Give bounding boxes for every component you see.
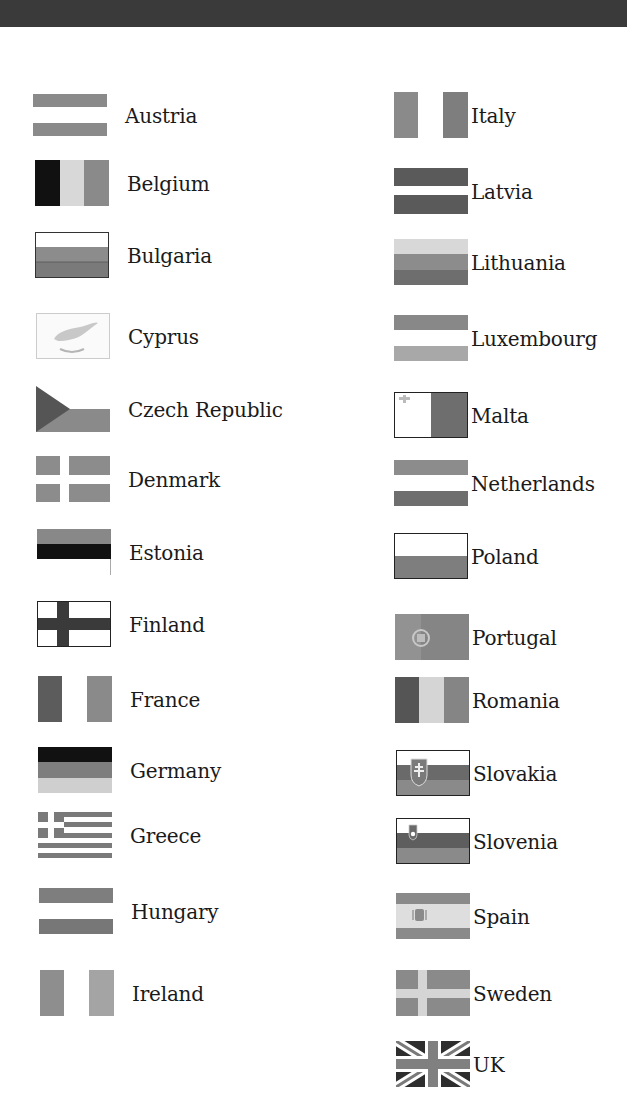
country-label: Hungary	[131, 900, 218, 924]
latvia-flag-icon	[394, 168, 468, 214]
poland-flag-icon	[394, 533, 468, 579]
netherlands-flag-icon	[394, 460, 468, 506]
france-flag-icon	[38, 676, 112, 722]
hungary-flag-icon	[39, 888, 113, 934]
country-label: Italy	[471, 104, 516, 128]
country-label: Slovakia	[473, 762, 557, 786]
country-label: Lithuania	[471, 251, 566, 275]
country-label: Finland	[129, 613, 205, 637]
country-label: Austria	[125, 104, 197, 128]
spain-flag-icon	[396, 893, 470, 939]
country-label: Malta	[471, 404, 529, 428]
country-label: UK	[473, 1053, 504, 1077]
country-label: Latvia	[471, 180, 533, 204]
country-label: Sweden	[473, 982, 552, 1006]
uk-flag-icon	[396, 1041, 470, 1087]
country-label: Slovenia	[473, 830, 558, 854]
country-label: Spain	[473, 905, 530, 929]
slovakia-flag-icon	[396, 750, 470, 796]
country-label: Estonia	[129, 541, 204, 565]
greece-flag-icon	[38, 812, 112, 858]
italy-flag-icon	[394, 92, 468, 138]
country-label: Greece	[130, 824, 201, 848]
czech-republic-flag-icon	[36, 386, 110, 432]
country-label: Netherlands	[471, 472, 595, 496]
belgium-flag-icon	[35, 160, 109, 206]
romania-flag-icon	[395, 677, 469, 723]
top-banner	[0, 0, 627, 27]
country-label: Cyprus	[128, 325, 199, 349]
denmark-flag-icon	[36, 456, 110, 502]
portugal-flag-icon	[395, 614, 469, 660]
malta-flag-icon	[394, 392, 468, 438]
estonia-flag-icon	[37, 529, 111, 575]
country-label: France	[130, 688, 200, 712]
finland-flag-icon	[37, 601, 111, 647]
country-label: Luxembourg	[471, 327, 597, 351]
sweden-flag-icon	[396, 970, 470, 1016]
country-label: Czech Republic	[128, 398, 283, 422]
bulgaria-flag-icon	[35, 232, 109, 278]
country-label: Bulgaria	[127, 244, 212, 268]
lithuania-flag-icon	[394, 239, 468, 285]
country-label: Poland	[471, 545, 539, 569]
country-label: Denmark	[128, 468, 220, 492]
luxembourg-flag-icon	[394, 315, 468, 361]
country-label: Romania	[472, 689, 560, 713]
country-label: Portugal	[472, 626, 557, 650]
country-label: Belgium	[127, 172, 210, 196]
cyprus-flag-icon	[36, 313, 110, 359]
slovenia-flag-icon	[396, 818, 470, 864]
austria-flag-icon	[33, 92, 107, 138]
country-label: Germany	[130, 759, 221, 783]
germany-flag-icon	[38, 747, 112, 793]
country-label: Ireland	[132, 982, 204, 1006]
ireland-flag-icon	[40, 970, 114, 1016]
